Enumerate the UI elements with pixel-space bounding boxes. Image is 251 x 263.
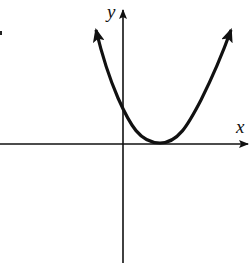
graph-canvas — [0, 0, 251, 263]
y-axis-label: y — [107, 2, 115, 21]
parabola-right-branch — [160, 30, 231, 143]
parabola-left-branch — [96, 30, 160, 143]
x-axis-label: x — [236, 117, 244, 136]
